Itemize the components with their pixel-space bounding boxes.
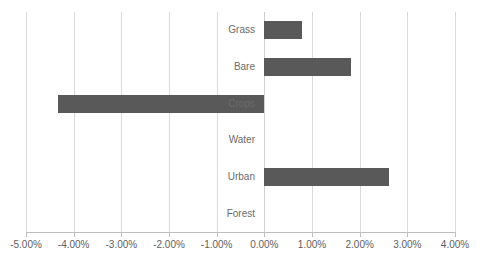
axis-tick: [360, 232, 361, 237]
bar-urban: [264, 168, 388, 186]
category-label-forest: Forest: [227, 209, 255, 219]
axis-tick: [121, 232, 122, 237]
axis-tick: [26, 232, 27, 237]
axis-tick-label: -3.00%: [105, 240, 137, 250]
axis-tick-label: -4.00%: [58, 240, 90, 250]
axis-tick-label: 2.00%: [345, 240, 373, 250]
gridline: [455, 12, 456, 232]
category-label-water: Water: [229, 135, 255, 145]
axis-tick: [264, 232, 265, 237]
axis-tick-label: -1.00%: [201, 240, 233, 250]
axis-tick: [169, 232, 170, 237]
bar-chart: GrassBareCropsWaterUrbanForest -5.00%-4.…: [0, 0, 482, 270]
axis-tick: [407, 232, 408, 237]
axis-tick: [217, 232, 218, 237]
category-label-urban: Urban: [228, 172, 255, 182]
bar-grass: [264, 21, 301, 39]
axis-tick-label: -2.00%: [153, 240, 185, 250]
axis-tick: [312, 232, 313, 237]
axis-tick: [455, 232, 456, 237]
axis-tick-label: 0.00%: [250, 240, 278, 250]
category-label-grass: Grass: [228, 25, 255, 35]
plot-area: GrassBareCropsWaterUrbanForest: [26, 12, 455, 232]
axis-tick: [74, 232, 75, 237]
axis-tick-label: -5.00%: [10, 240, 42, 250]
axis-tick-label: 1.00%: [298, 240, 326, 250]
bar-bare: [264, 58, 350, 76]
category-label-bare: Bare: [234, 62, 255, 72]
axis-tick-label: 3.00%: [393, 240, 421, 250]
axis-tick-label: 4.00%: [441, 240, 469, 250]
category-label-crops: Crops: [228, 99, 255, 109]
value-axis-line: [26, 232, 455, 233]
